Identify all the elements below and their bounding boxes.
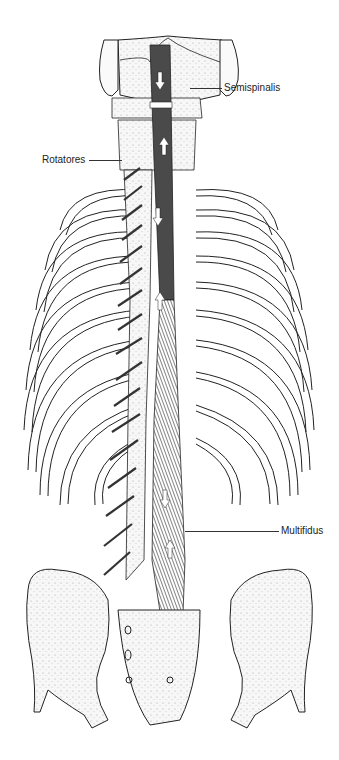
multifidus-leader-line — [185, 531, 279, 532]
label-rotatores: Rotatores — [42, 154, 85, 166]
label-semispinalis: Semispinalis — [224, 82, 280, 94]
rotatores-leader-line — [89, 160, 122, 161]
semispinalis-leader-line — [190, 88, 222, 89]
multifidus-muscle — [152, 300, 185, 650]
label-multifidus: Multifidus — [281, 525, 323, 537]
anatomy-illustration — [0, 0, 339, 760]
